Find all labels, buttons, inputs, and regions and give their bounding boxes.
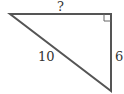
hypotenuse-label: 10 (38, 50, 55, 63)
triangle-outline (10, 14, 111, 91)
top-side-label: ? (57, 0, 64, 13)
right-triangle-diagram: ? 10 6 (0, 0, 124, 94)
triangle-figure (0, 0, 124, 94)
right-angle-marker-icon (104, 14, 111, 21)
right-side-label: 6 (115, 50, 123, 63)
